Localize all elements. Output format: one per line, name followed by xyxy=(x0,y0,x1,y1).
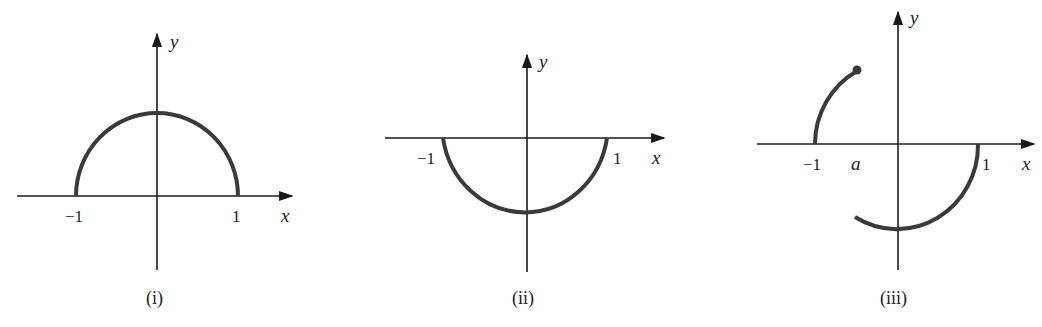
tick-1: 1 xyxy=(613,149,622,168)
lower-arc xyxy=(855,144,978,229)
graph-iii: −1 a 1 x y (iii) xyxy=(757,7,1034,309)
figure-canvas: −1 1 x y (i) −1 1 x y (ii) −1 a 1 x y (i… xyxy=(0,0,1042,327)
graph-ii: −1 1 x y (ii) xyxy=(385,51,664,309)
x-axis-label: x xyxy=(280,205,290,226)
caption-iii: (iii) xyxy=(880,288,907,309)
tick-neg1: −1 xyxy=(803,155,821,174)
x-axis-label: x xyxy=(651,147,661,168)
y-axis-label: y xyxy=(168,31,179,52)
tick-1: 1 xyxy=(232,207,241,226)
tick-neg1: −1 xyxy=(417,149,435,168)
caption-ii: (ii) xyxy=(512,288,534,309)
tick-neg1: −1 xyxy=(65,207,83,226)
y-axis-label: y xyxy=(908,7,919,28)
x-axis-label: x xyxy=(1021,153,1031,174)
caption-i: (i) xyxy=(146,288,163,309)
lower-semicircle xyxy=(443,138,607,212)
tick-a: a xyxy=(851,153,861,174)
graph-i: −1 1 x y (i) xyxy=(17,31,292,309)
y-axis-label: y xyxy=(537,51,548,72)
tick-1: 1 xyxy=(982,155,991,174)
upper-arc xyxy=(815,71,857,144)
closed-endpoint-dot xyxy=(853,66,862,75)
